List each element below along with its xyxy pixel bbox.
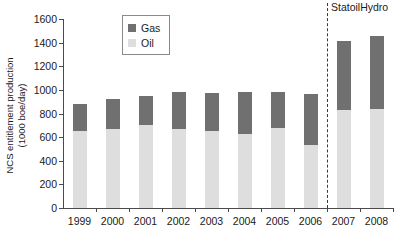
bar-segment-oil (139, 125, 153, 208)
bar-2003 (205, 93, 219, 208)
y-tick-label: 200 (39, 178, 57, 190)
bar-2006 (304, 94, 318, 208)
y-axis-title: NCS entitlement production (1000 boe/day… (0, 0, 30, 249)
bar-2004 (238, 92, 252, 208)
bar-2002 (172, 92, 186, 208)
x-tick-mark (96, 208, 97, 212)
x-tick-mark (195, 208, 196, 212)
y-tick-label: 1200 (34, 60, 57, 72)
bar-segment-oil (337, 110, 351, 208)
y-tick-label: 1400 (34, 37, 57, 49)
period-divider-line (327, 3, 328, 208)
chart-figure: NCS entitlement production (1000 boe/day… (0, 0, 403, 249)
bar-segment-oil (370, 109, 384, 208)
y-axis-line (63, 19, 64, 208)
y-tick-mark (59, 184, 63, 185)
y-tick-mark (59, 137, 63, 138)
bar-segment-gas (106, 99, 120, 129)
x-tick-mark (327, 208, 328, 212)
legend-swatch-gas-icon (128, 24, 136, 32)
bar-segment-oil (304, 145, 318, 208)
y-tick-mark (59, 114, 63, 115)
legend-item-oil: Oil (128, 35, 160, 50)
bar-segment-oil (238, 134, 252, 208)
bar-segment-gas (370, 36, 384, 109)
bar-segment-oil (271, 128, 285, 208)
x-tick-label: 2007 (332, 215, 355, 227)
y-tick-label: 0 (51, 202, 57, 214)
y-tick-mark (59, 66, 63, 67)
x-tick-label: 2004 (233, 215, 256, 227)
bar-segment-gas (337, 41, 351, 110)
plot-area: 02004006008001000120014001600 1999200020… (63, 19, 393, 208)
bar-segment-oil (73, 131, 87, 208)
y-tick-label: 1000 (34, 84, 57, 96)
bar-2005 (271, 92, 285, 208)
legend-label-gas: Gas (141, 22, 160, 34)
statoilhydro-annotation: StatoilHydro (331, 1, 388, 13)
x-tick-mark (261, 208, 262, 212)
bar-segment-gas (238, 92, 252, 134)
y-tick-mark (59, 208, 63, 209)
y-tick-mark (59, 161, 63, 162)
bar-2008 (370, 36, 384, 208)
x-tick-mark (228, 208, 229, 212)
bar-2007 (337, 41, 351, 208)
y-tick-label: 800 (39, 108, 57, 120)
x-tick-label: 2008 (365, 215, 388, 227)
bar-segment-oil (106, 129, 120, 208)
y-tick-label: 600 (39, 131, 57, 143)
x-tick-label: 2000 (101, 215, 124, 227)
chart-legend: Gas Oil (122, 15, 170, 55)
y-axis-title-line1: NCS entitlement production (4, 31, 16, 201)
bar-segment-gas (205, 93, 219, 131)
x-tick-label: 2002 (167, 215, 190, 227)
bar-2000 (106, 99, 120, 208)
y-tick-mark (59, 19, 63, 20)
x-tick-mark (294, 208, 295, 212)
x-tick-mark (360, 208, 361, 212)
x-tick-mark (129, 208, 130, 212)
y-tick-mark (59, 43, 63, 44)
bar-segment-gas (139, 96, 153, 125)
legend-item-gas: Gas (128, 20, 160, 35)
bar-1999 (73, 104, 87, 208)
bar-segment-gas (304, 94, 318, 145)
legend-swatch-oil-icon (128, 39, 136, 47)
bar-segment-oil (172, 129, 186, 208)
bar-2001 (139, 96, 153, 208)
y-axis-title-line2: (1000 boe/day) (15, 31, 27, 201)
x-tick-label: 1999 (68, 215, 91, 227)
x-tick-label: 2003 (200, 215, 223, 227)
x-tick-label: 2005 (266, 215, 289, 227)
y-tick-label: 400 (39, 155, 57, 167)
bar-segment-gas (73, 104, 87, 131)
legend-label-oil: Oil (141, 37, 154, 49)
bar-segment-gas (271, 92, 285, 128)
x-tick-mark (393, 208, 394, 212)
y-tick-mark (59, 90, 63, 91)
bar-segment-gas (172, 92, 186, 130)
bar-segment-oil (205, 131, 219, 208)
y-tick-label: 1600 (34, 13, 57, 25)
x-tick-label: 2006 (299, 215, 322, 227)
x-tick-mark (162, 208, 163, 212)
x-tick-label: 2001 (134, 215, 157, 227)
